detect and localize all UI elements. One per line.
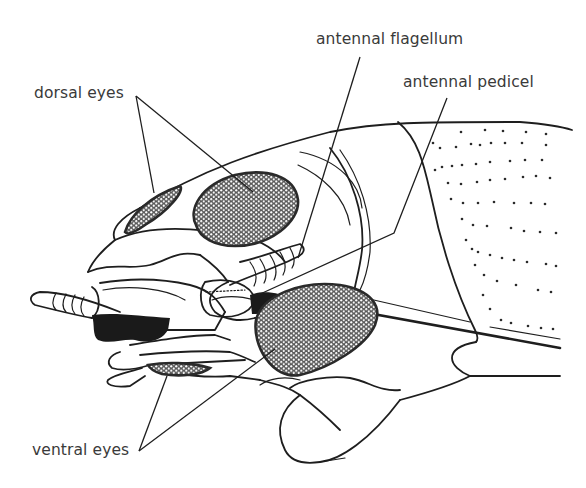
mouthparts-brush: [92, 314, 170, 342]
pronotum-dots: [432, 129, 558, 331]
dorsal-eye-large: [194, 172, 298, 246]
label-ventral-eyes: ventral eyes: [32, 441, 129, 459]
left-antenna: [31, 287, 120, 318]
label-dorsal-eyes: dorsal eyes: [34, 84, 124, 102]
insect-head-diagram: dorsal eyes antennal flagellum antennal …: [0, 0, 586, 488]
label-antennal-pedicel: antennal pedicel: [403, 73, 534, 91]
ventral-eye-small: [148, 363, 210, 375]
leader-antennal-flagellum: [298, 57, 360, 258]
label-antennal-flagellum: antennal flagellum: [316, 30, 463, 48]
leader-dorsal-eyes-small: [136, 96, 154, 193]
ventral-eye-large: [255, 284, 377, 375]
dorsal-eye-small: [125, 186, 181, 233]
thorax-outline: [140, 122, 572, 400]
